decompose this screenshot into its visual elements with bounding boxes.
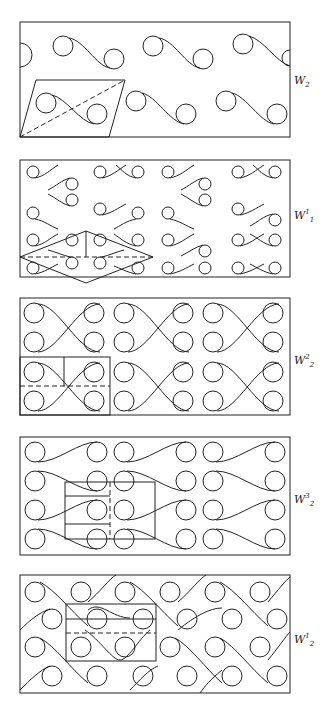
panel-frame [20, 160, 290, 277]
panel-w2 [20, 22, 290, 137]
panel-label-w2-1: W12 [294, 632, 314, 648]
panel-w2-3 [20, 437, 290, 555]
panel-label-w1-1: W11 [294, 208, 314, 224]
panel-label-w2-2: W22 [294, 353, 314, 369]
wallpaper-group-figure [0, 0, 325, 706]
panel-label-w2: W2 [294, 74, 310, 89]
panel-w2-1 [20, 575, 290, 693]
panel-w1-1 [20, 160, 290, 283]
panel-frame [20, 575, 290, 693]
panel-label-w2-3: W32 [294, 492, 314, 508]
panel-w2-2 [20, 298, 290, 415]
